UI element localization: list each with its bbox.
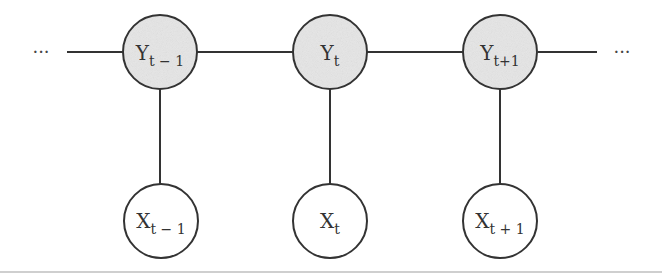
hidden-node-y-next: Yt+1 [463,15,537,89]
observed-node-x-next: Xt + 1 [463,184,537,258]
observed-node-x-curr: Xt [293,184,367,258]
hmm-diagram: ··· ··· Yt − 1 Yt Yt+1 Xt − 1 Xt [0,0,662,274]
hidden-node-y-prev: Yt − 1 [123,15,197,89]
ellipsis-left: ··· [32,41,49,62]
emission-edges [160,89,500,184]
ellipsis-right: ··· [613,41,630,62]
observed-node-x-prev: Xt − 1 [124,184,198,258]
hidden-node-y-curr: Yt [293,15,367,89]
